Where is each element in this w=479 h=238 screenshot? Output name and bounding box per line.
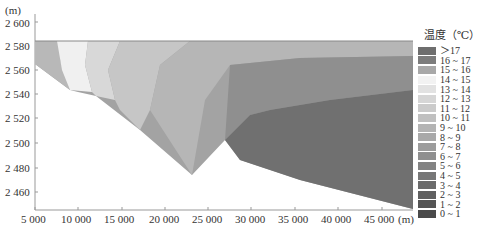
- legend-swatch: [418, 47, 436, 55]
- legend-title: 温度（℃）: [424, 26, 479, 42]
- legend-label: 9 ~ 10: [440, 123, 465, 132]
- x-tick: 35 000: [278, 213, 308, 225]
- legend-label: 12 ~ 13: [440, 94, 470, 103]
- legend-label: 0 ~ 1: [440, 209, 460, 218]
- legend-swatch: [418, 172, 436, 180]
- legend-swatch: [418, 152, 436, 160]
- contour-plot: [0, 0, 479, 238]
- legend-swatch: [418, 124, 436, 132]
- legend-label: 7 ~ 8: [440, 142, 460, 151]
- legend-item: 0 ~ 1: [418, 209, 479, 219]
- x-tick: 45 000: [364, 213, 394, 225]
- legend-swatch: [418, 76, 436, 84]
- legend-swatch: [418, 95, 436, 103]
- legend-label: 14 ~ 15: [440, 75, 470, 84]
- x-tick: 15 000: [104, 213, 134, 225]
- x-tick: 5 000: [21, 213, 46, 225]
- legend: 温度（℃） ＞1716 ~ 1715 ~ 1614 ~ 1513 ~ 1412 …: [418, 26, 479, 219]
- x-tick: 10 000: [61, 213, 91, 225]
- legend-swatch: [418, 191, 436, 199]
- x-tick: 40 000: [321, 213, 351, 225]
- legend-swatch: [418, 133, 436, 141]
- x-axis-unit: (m): [398, 213, 414, 225]
- legend-swatch: [418, 162, 436, 170]
- x-tick: 30 000: [235, 213, 265, 225]
- x-tick: 25 000: [192, 213, 222, 225]
- legend-label: ＞17: [440, 46, 460, 55]
- chart: (m) 2 600 2 580 2 560 2 540 2 520 2 500 …: [0, 0, 479, 238]
- legend-label: 4 ~ 5: [440, 171, 460, 180]
- legend-swatch: [418, 210, 436, 218]
- legend-swatch: [418, 85, 436, 93]
- legend-label: 2 ~ 3: [440, 190, 460, 199]
- legend-swatch: [418, 200, 436, 208]
- legend-swatch: [418, 104, 436, 112]
- legend-item: 9 ~ 10: [418, 123, 479, 133]
- legend-swatch: [418, 181, 436, 189]
- legend-swatch: [418, 66, 436, 74]
- legend-item: 14 ~ 15: [418, 75, 479, 85]
- legend-swatch: [418, 143, 436, 151]
- x-tick: 20 000: [149, 213, 179, 225]
- legend-swatch: [418, 56, 436, 64]
- legend-swatch: [418, 114, 436, 122]
- legend-item: 4 ~ 5: [418, 171, 479, 181]
